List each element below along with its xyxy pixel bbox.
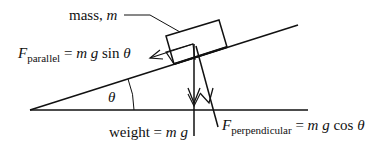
incline-line xyxy=(30,25,298,110)
inclined-plane-diagram: θ mass, m Fparallel = m g sin θ weight =… xyxy=(0,0,386,149)
angle-label: θ xyxy=(108,89,116,105)
weight-label: weight = m g xyxy=(109,124,188,140)
perpendicular-force-vector xyxy=(196,46,218,127)
mass-label: mass, m xyxy=(69,7,118,23)
parallel-force-label: Fparallel = m g sin θ xyxy=(17,45,131,64)
mass-leader-line xyxy=(124,15,180,32)
perpendicular-force-label: Fperpendicular = m g cos θ xyxy=(221,117,365,136)
angle-arc xyxy=(128,79,134,110)
